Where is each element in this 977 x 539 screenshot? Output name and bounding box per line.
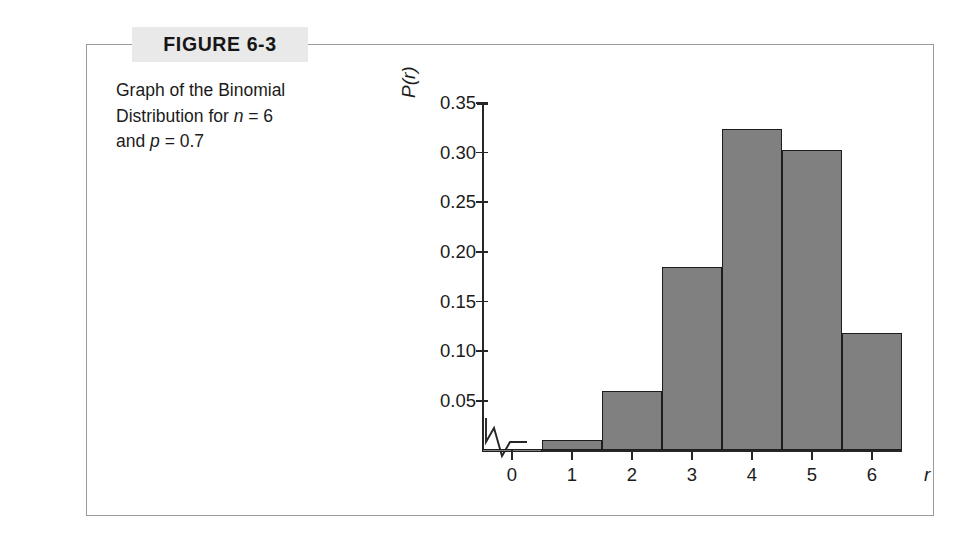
histogram-bar <box>722 129 782 451</box>
y-axis-tick <box>476 251 488 253</box>
histogram-bar <box>842 333 902 450</box>
y-axis-tick-label: 0.10 <box>420 340 476 362</box>
x-axis-tick-label: 3 <box>672 464 712 486</box>
figure-caption: Graph of the Binomial Distribution for n… <box>116 78 346 155</box>
x-axis-tick <box>511 450 513 460</box>
histogram-bar <box>542 440 602 450</box>
y-axis-tick <box>476 102 488 104</box>
histogram-bar <box>782 150 842 451</box>
x-axis-tick-label: 0 <box>492 464 532 486</box>
y-axis-tick-labels: 0.350.300.250.200.150.100.05 <box>420 84 476 504</box>
x-axis-tick <box>571 450 573 460</box>
figure-label: FIGURE 6-3 <box>163 33 276 56</box>
y-axis-tick-label: 0.05 <box>420 390 476 412</box>
x-axis-label: r <box>924 464 930 486</box>
x-axis-tick-label: 4 <box>732 464 772 486</box>
caption-p-value: = 0.7 <box>160 131 204 151</box>
plot-area: r 0123456 <box>482 84 902 455</box>
y-axis-tick <box>476 350 488 352</box>
y-axis-tick-label: 0.25 <box>420 191 476 213</box>
y-axis-tick <box>476 152 488 154</box>
y-axis-tick-label: 0.20 <box>420 241 476 263</box>
y-axis-tick-label: 0.30 <box>420 142 476 164</box>
y-axis-label: P(r) <box>398 66 420 98</box>
x-axis-tick-label: 1 <box>552 464 592 486</box>
caption-n-symbol: n <box>234 106 244 126</box>
x-axis-tick-label: 5 <box>792 464 832 486</box>
caption-n-value: = 6 <box>243 106 273 126</box>
y-axis-tick-label: 0.35 <box>420 92 476 114</box>
figure-label-band: FIGURE 6-3 <box>132 27 308 62</box>
x-axis-tick <box>871 450 873 460</box>
x-axis-tick <box>691 450 693 460</box>
x-axis-tick <box>751 450 753 460</box>
caption-p-symbol: p <box>150 131 160 151</box>
y-axis-tick <box>476 301 488 303</box>
y-axis-tick <box>476 201 488 203</box>
y-axis-tick-label: 0.15 <box>420 291 476 313</box>
histogram-bar <box>662 267 722 451</box>
caption-line-1: Graph of the Binomial <box>116 80 285 100</box>
x-axis-tick <box>811 450 813 460</box>
histogram-bar <box>602 391 662 451</box>
x-axis-tick-label: 2 <box>612 464 652 486</box>
x-axis-tick-label: 6 <box>852 464 892 486</box>
axis-break-icon <box>483 416 529 460</box>
y-axis-line <box>482 103 484 451</box>
x-axis-tick <box>631 450 633 460</box>
caption-line-2-text: Distribution for <box>116 106 234 126</box>
y-axis-tick <box>476 400 488 402</box>
binomial-histogram-chart: P(r) 0.350.300.250.200.150.100.05 r 0123… <box>396 84 936 504</box>
caption-line-3-text: and <box>116 131 150 151</box>
